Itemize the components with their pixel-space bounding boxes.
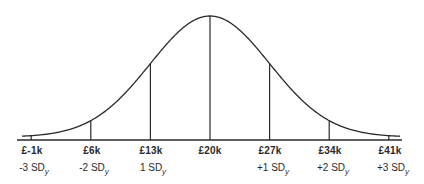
bell-curve — [22, 16, 400, 136]
sd-label-minus-3: -3 SDy — [19, 162, 49, 176]
tick-label-13k: £13k — [139, 145, 162, 156]
sd-lines — [31, 16, 389, 140]
sd-label-plus-1: +1 SDy — [257, 162, 289, 176]
sd-label-plus-2: +2 SDy — [317, 162, 349, 176]
sd-label-minus-1: 1 SDy — [140, 162, 166, 176]
normal-distribution-diagram — [0, 0, 424, 184]
sd-label-minus-2: -2 SDy — [79, 162, 109, 176]
tick-label-34k: £34k — [318, 145, 341, 156]
tick-label-6k: £6k — [83, 145, 100, 156]
sd-label-plus-3: +3 SDy — [377, 162, 409, 176]
tick-label-minus-1k: £-1k — [22, 145, 43, 156]
tick-label-27k: £27k — [258, 145, 281, 156]
tick-label-41k: £41k — [378, 145, 401, 156]
tick-label-20k: £20k — [198, 145, 221, 156]
